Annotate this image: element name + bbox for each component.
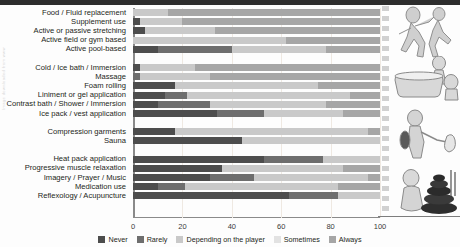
chart-legend: NeverRarelyDepending on the playerSometi…: [0, 235, 460, 244]
legend-label: Depending on the player: [186, 235, 264, 244]
bar-segment: [242, 137, 380, 144]
category-label: Cold / Ice bath / Immersion: [35, 64, 126, 72]
bar-segment: [368, 128, 380, 135]
bar-row: [133, 174, 380, 181]
bar-segment: [133, 46, 158, 53]
legend-label: Sometimes: [284, 235, 320, 244]
category-label: Compression garments: [48, 128, 127, 136]
bar-segment: [264, 156, 323, 163]
category-label: Supplement use: [71, 18, 126, 26]
bar-segment: [133, 37, 286, 44]
bar-segment: [338, 192, 380, 199]
film-strip-decoration: [382, 6, 389, 214]
bar-row: [133, 9, 380, 16]
bar-row: [133, 92, 380, 99]
bar-segment: [210, 174, 254, 181]
category-label: Ice pack / vest application: [39, 110, 126, 118]
bar-segment: [286, 37, 380, 44]
illustration-column: [382, 4, 460, 218]
bar-row: [133, 128, 380, 135]
bar-row: [133, 18, 380, 25]
bar-segment: [343, 165, 380, 172]
x-axis-tick-label: 100: [374, 222, 387, 231]
category-label: Progressive muscle relaxation: [25, 164, 126, 172]
bar-segment: [133, 137, 242, 144]
bar-segment: [133, 110, 217, 117]
bar-segment: [133, 64, 140, 71]
bar-row: [133, 101, 380, 108]
bar-segment: [168, 9, 380, 16]
bar-segment: [195, 64, 380, 71]
bar-segment: [210, 73, 380, 80]
bar-segment: [133, 101, 158, 108]
bar-segment: [215, 27, 380, 34]
bar-segment: [289, 192, 338, 199]
bar-row: [133, 46, 380, 53]
category-label: Active field or gym based: [41, 36, 126, 44]
bar-segment: [133, 82, 175, 89]
bar-segment: [133, 192, 289, 199]
bar-segment: [318, 82, 380, 89]
category-label: Massage: [95, 73, 126, 81]
legend-item[interactable]: Sometimes: [274, 235, 320, 244]
bar-segment: [158, 46, 232, 53]
x-axis-tick-label: 40: [228, 222, 236, 231]
bar-row: [133, 192, 380, 199]
figure-container: Image downloaded from www Food / Fluid r…: [0, 0, 460, 247]
bar-segment: [133, 18, 140, 25]
legend-item[interactable]: Depending on the player: [176, 235, 264, 244]
bar-segment: [264, 110, 343, 117]
bar-segment: [133, 183, 158, 190]
gridline: [380, 8, 381, 218]
bar-segment: [158, 101, 210, 108]
category-label: Active pool-based: [66, 45, 126, 53]
bar-segment: [350, 92, 380, 99]
bar-segment: [133, 9, 168, 16]
bar-row: [133, 137, 380, 144]
bar-segment: [254, 174, 368, 181]
legend-swatch: [176, 236, 183, 243]
bar-segment: [217, 110, 264, 117]
bar-segment: [165, 92, 187, 99]
category-label: Food / Fluid replacement: [42, 9, 126, 17]
bar-row: [133, 110, 380, 117]
x-axis-ticks: 020406080100: [0, 222, 460, 234]
ice-bath-tub-illustration: [391, 56, 459, 106]
category-label: Medication use: [75, 183, 126, 191]
bar-segment: [133, 165, 222, 172]
legend-label: Never: [108, 235, 127, 244]
legend-item[interactable]: Rarely: [137, 235, 168, 244]
bar-row: [133, 73, 380, 80]
bar-segment: [368, 174, 380, 181]
bar-row: [133, 27, 380, 34]
category-label: Heat pack application: [53, 155, 126, 163]
bar-segment: [338, 183, 380, 190]
category-label: Reflexology / Acupuncture: [38, 192, 126, 200]
bar-rows: [133, 8, 380, 218]
bar-segment: [222, 165, 343, 172]
x-axis-tick-label: 20: [178, 222, 186, 231]
bar-segment: [133, 128, 175, 135]
bar-segment: [133, 27, 145, 34]
bar-segment: [133, 156, 264, 163]
bar-segment: [185, 183, 338, 190]
bar-row: [133, 165, 380, 172]
category-label: Liniment or gel application: [38, 91, 126, 99]
bar-segment: [140, 18, 182, 25]
bar-segment: [343, 110, 380, 117]
plot-area: [133, 8, 380, 218]
x-axis-tick-label: 60: [277, 222, 285, 231]
bar-segment: [232, 46, 326, 53]
category-label: Foam rolling: [84, 82, 126, 90]
legend-swatch: [137, 236, 144, 243]
bar-row: [133, 156, 380, 163]
category-label: Imagery / Prayer / Music: [44, 174, 126, 182]
x-axis-tick-label: 0: [131, 222, 135, 231]
legend-item[interactable]: Never: [98, 235, 127, 244]
bar-row: [133, 37, 380, 44]
bar-segment: [326, 101, 380, 108]
bar-segment: [326, 46, 380, 53]
legend-item[interactable]: Always: [329, 235, 362, 244]
massage-therapy-illustration: [391, 108, 459, 164]
bottom-divider: [378, 216, 460, 217]
